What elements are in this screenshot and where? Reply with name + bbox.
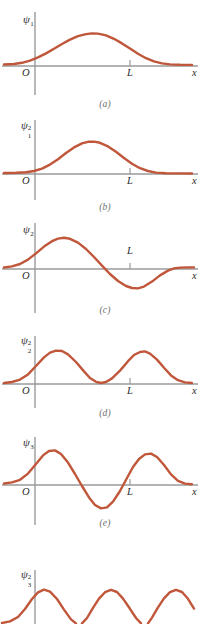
psi2-curve <box>4 238 194 289</box>
panel-c: ψ2 O L x (c) <box>0 213 210 321</box>
panel-b: ψ21 O L x (b) <box>0 112 210 218</box>
wavefunction-figure: ψ1 O L x (a) ψ21 O L x (b) ψ2 O L x (c) <box>0 0 210 624</box>
psi1-curve <box>4 33 192 65</box>
panel-e: ψ3 O L x (e) <box>0 423 210 533</box>
panel-c-x-label: x <box>192 271 197 282</box>
psi3-curve <box>4 450 192 508</box>
panel-d-L-label: L <box>127 386 133 397</box>
panel-a: ψ1 O L x (a) <box>0 0 210 118</box>
psi1-squared-curve <box>4 142 192 174</box>
panel-e-origin-label: O <box>22 487 30 498</box>
panel-b-caption: (b) <box>0 202 210 212</box>
panel-b-L-label: L <box>127 176 133 187</box>
panel-d-x-label: x <box>192 386 197 397</box>
panel-e-caption: (e) <box>0 518 210 528</box>
panel-d-y-label: ψ22 <box>21 335 33 346</box>
panel-c-caption: (c) <box>0 305 210 315</box>
panel-e-x-label: x <box>192 487 197 498</box>
panel-a-y-label: ψ1 <box>23 14 33 25</box>
panel-b-y-label: ψ21 <box>21 120 33 131</box>
panel-d-origin-label: O <box>22 386 30 397</box>
panel-c-y-label: ψ2 <box>23 224 33 235</box>
psi3-squared-curve <box>2 590 194 624</box>
panel-d-caption: (d) <box>0 408 210 418</box>
panel-b-origin-label: O <box>22 176 30 187</box>
panel-f-y-label: ψ23 <box>21 569 33 580</box>
panel-b-x-label: x <box>192 176 197 187</box>
panel-a-origin-label: O <box>22 68 30 79</box>
panel-e-y-label: ψ3 <box>23 437 33 448</box>
panel-a-x-label: x <box>192 68 197 79</box>
panel-f: ψ23 <box>0 560 210 624</box>
panel-d: ψ22 O L x (d) <box>0 320 210 424</box>
panel-a-L-label: L <box>127 68 133 79</box>
panel-c-L-label: L <box>127 246 133 257</box>
panel-e-L-label: L <box>127 487 133 498</box>
panel-a-caption: (a) <box>0 99 210 109</box>
panel-c-origin-label: O <box>22 271 30 282</box>
psi2-squared-curve <box>4 351 192 383</box>
